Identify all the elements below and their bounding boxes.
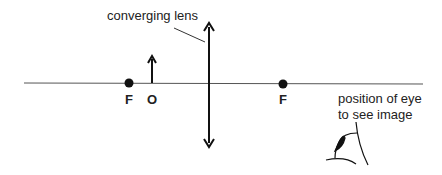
focal-point-right [279,80,288,89]
focal-right-label: F [279,92,287,107]
object-label: O [147,92,157,107]
lens-diagram: converging lens F O F position of eye to… [0,0,442,175]
converging-lens [204,23,214,147]
focal-point-left [125,79,134,88]
principal-axis [24,83,423,84]
eye-label-line2: to see image [338,107,412,122]
lens-leader-line [174,28,205,42]
eye-label-line1: position of eye [338,91,422,106]
lens-label: converging lens [107,8,199,23]
object-arrow [148,56,156,83]
focal-left-label: F [125,92,133,107]
eye-icon [326,122,368,165]
